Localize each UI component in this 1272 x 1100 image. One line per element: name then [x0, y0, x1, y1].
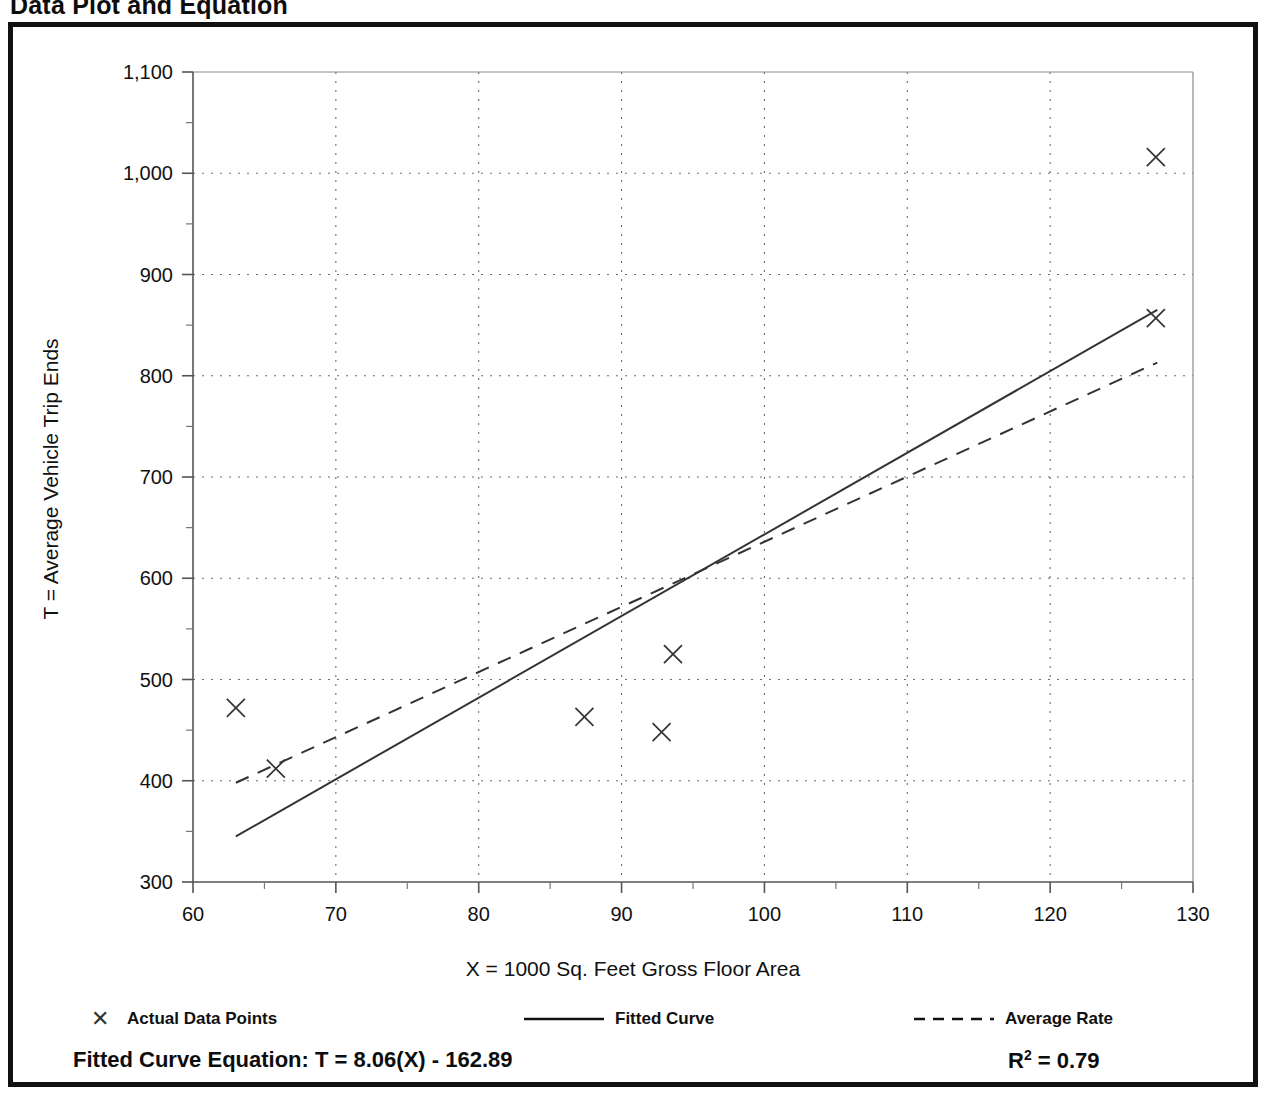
r-squared-symbol: R: [1008, 1048, 1024, 1073]
svg-text:60: 60: [182, 903, 204, 925]
svg-text:100: 100: [748, 903, 781, 925]
dashed-line-icon: [913, 1014, 995, 1024]
x-marker-icon: ✕: [83, 1008, 117, 1030]
fitted-curve-equation: Fitted Curve Equation: T = 8.06(X) - 162…: [73, 1047, 513, 1073]
legend-item-average-rate: Average Rate: [913, 1002, 1113, 1036]
svg-text:300: 300: [140, 871, 173, 893]
svg-text:400: 400: [140, 770, 173, 792]
legend-label-fitted-curve: Fitted Curve: [615, 1009, 714, 1029]
x-axis-title: X = 1000 Sq. Feet Gross Floor Area: [13, 957, 1253, 981]
solid-line-icon: [523, 1014, 605, 1024]
svg-text:1,100: 1,100: [123, 61, 173, 83]
svg-text:80: 80: [468, 903, 490, 925]
svg-text:900: 900: [140, 264, 173, 286]
legend-label-actual-data-points: Actual Data Points: [127, 1009, 277, 1029]
svg-text:130: 130: [1176, 903, 1209, 925]
scatter-plot: 3004005006007008009001,0001,100607080901…: [13, 27, 1253, 1082]
r-squared-number: = 0.79: [1038, 1048, 1100, 1073]
r-squared-exponent: 2: [1024, 1047, 1032, 1063]
y-axis-title: T = Average Vehicle Trip Ends: [39, 299, 63, 659]
legend-item-fitted-curve: Fitted Curve: [523, 1002, 714, 1036]
chart-area: 3004005006007008009001,0001,100607080901…: [13, 27, 1253, 1082]
svg-text:90: 90: [610, 903, 632, 925]
legend-item-actual-data-points: ✕ Actual Data Points: [83, 1002, 277, 1036]
svg-text:110: 110: [891, 903, 923, 925]
svg-text:70: 70: [325, 903, 347, 925]
svg-text:800: 800: [140, 365, 173, 387]
r-squared-value: R2 = 0.79: [1008, 1047, 1100, 1074]
page-title: Data Plot and Equation: [10, 0, 288, 20]
legend-label-average-rate: Average Rate: [1005, 1009, 1113, 1029]
svg-text:600: 600: [140, 567, 173, 589]
svg-text:500: 500: [140, 669, 173, 691]
chart-frame: 3004005006007008009001,0001,100607080901…: [8, 22, 1258, 1087]
svg-text:700: 700: [140, 466, 173, 488]
equation-row: Fitted Curve Equation: T = 8.06(X) - 162…: [13, 1047, 1253, 1087]
chart-legend: ✕ Actual Data Points Fitted Curve Averag…: [13, 1002, 1253, 1036]
svg-text:120: 120: [1033, 903, 1066, 925]
svg-text:1,000: 1,000: [123, 162, 173, 184]
